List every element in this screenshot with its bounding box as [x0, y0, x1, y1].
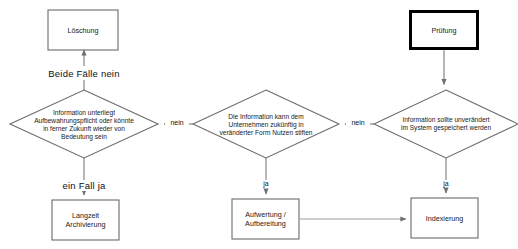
edge-label-ein-fall-ja: ein Fall ja: [32, 180, 136, 191]
node-pruefung-box[interactable]: [411, 12, 478, 49]
edge-label-nein-middle: nein: [165, 119, 189, 126]
flowchart-canvas: Löschung Prüfung Langzeit Archivierung A…: [0, 0, 518, 249]
decision-right-diamond[interactable]: [374, 90, 518, 158]
node-langzeit-archivierung-box[interactable]: [52, 200, 119, 240]
node-loeschung-box[interactable]: [48, 10, 118, 50]
edge-label-ja-right: ja: [436, 180, 456, 187]
edge-label-ja-middle: ja: [256, 180, 276, 187]
node-indexierung-box[interactable]: [411, 198, 478, 238]
decision-middle-diamond[interactable]: [193, 90, 339, 158]
node-aufwertung-aufbereitung-box[interactable]: [232, 199, 299, 239]
edge-label-nein-right: nein: [346, 119, 370, 126]
edge-label-beide-faelle-nein: Beide Fälle nein: [22, 68, 146, 79]
flowchart-vector-layer: [0, 0, 518, 249]
decision-left-diamond[interactable]: [10, 90, 158, 158]
